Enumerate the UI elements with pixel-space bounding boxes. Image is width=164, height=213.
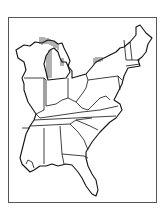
state-borders <box>22 40 140 168</box>
region-outline <box>16 25 152 196</box>
lake-shore-hatching <box>40 37 102 78</box>
eastern-us-map <box>0 0 164 213</box>
